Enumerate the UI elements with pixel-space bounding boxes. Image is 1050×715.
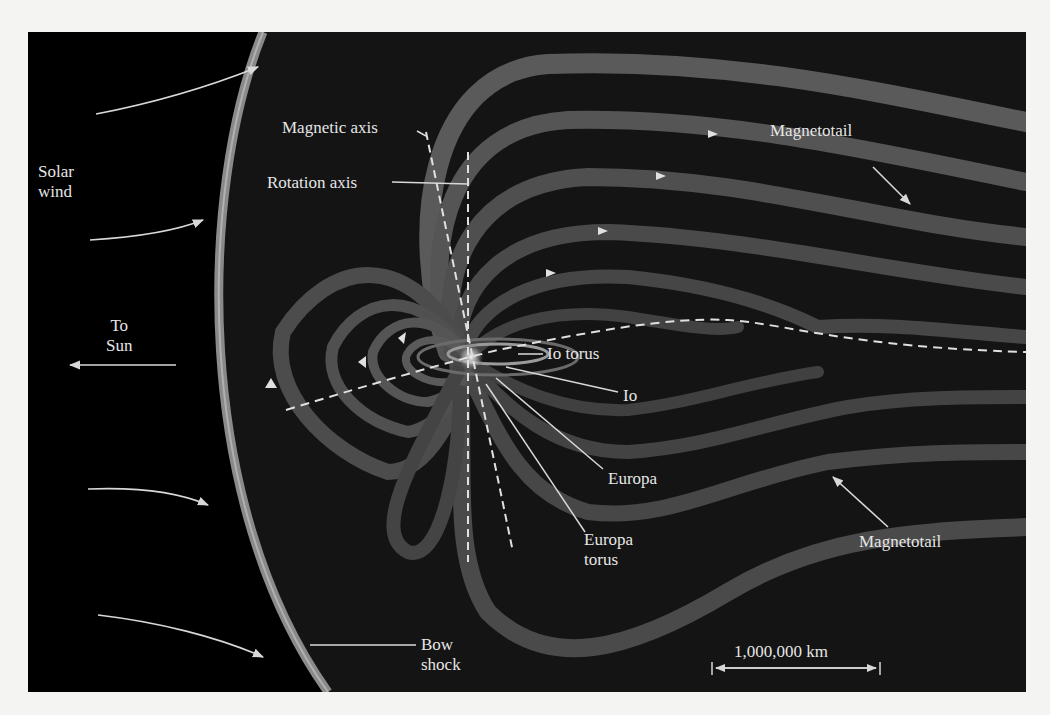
jupiter	[457, 343, 485, 371]
io-torus-label: Io torus	[547, 344, 599, 364]
rotation-axis-label: Rotation axis	[267, 173, 357, 193]
io-label: Io	[623, 386, 637, 406]
magnetotail-bottom-label: Magnetotail	[859, 532, 941, 552]
europa-label: Europa	[608, 469, 657, 489]
solar-wind-label: Solar wind	[38, 162, 74, 202]
diagram-graphics	[28, 32, 1026, 692]
magnetic-axis-label: Magnetic axis	[282, 118, 378, 138]
europa-torus-label: Europa torus	[584, 530, 633, 570]
magnetotail-top-label: Magnetotail	[770, 121, 852, 141]
to-sun-label: To Sun	[106, 316, 132, 356]
bow-shock-label: Bow shock	[421, 635, 461, 675]
magnetosphere-diagram: Solar wind To Sun Magnetic axis Rotation…	[28, 32, 1026, 692]
scale-bar-label: 1,000,000 km	[734, 642, 828, 662]
